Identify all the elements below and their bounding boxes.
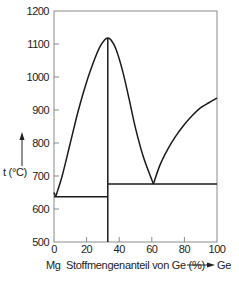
y-tick-label: 500 [32,236,49,248]
y-axis-arrow-icon [20,132,25,166]
x-axis: 020406080100 [51,237,226,255]
x-tick-label: 100 [209,243,226,255]
x-tick-label: 0 [51,243,57,255]
series-group [54,38,217,242]
x-tick-label: 40 [114,243,126,255]
x-axis-right-element: Ge [217,259,231,271]
y-tick-label: 600 [32,203,49,215]
y-axis-label: t (°C) [3,166,27,178]
x-axis-left-element: Mg [46,259,61,271]
y-tick-label: 1100 [27,38,49,50]
x-tick-label: 80 [179,243,191,255]
series-liquidus-right [153,98,217,184]
series-liquidus-compound [56,38,154,197]
x-tick-label: 20 [81,243,93,255]
x-tick-label: 60 [146,243,158,255]
phase-diagram: 500600700800900100011001200 020406080100… [0,0,239,283]
y-tick-label: 1200 [27,5,50,17]
y-tick-label: 800 [32,137,49,149]
y-tick-label: 1000 [27,71,50,83]
y-tick-label: 900 [32,104,49,116]
y-tick-label: 700 [32,170,49,182]
x-axis-label: Stoffmengenanteil von Ge (%) [66,259,205,271]
